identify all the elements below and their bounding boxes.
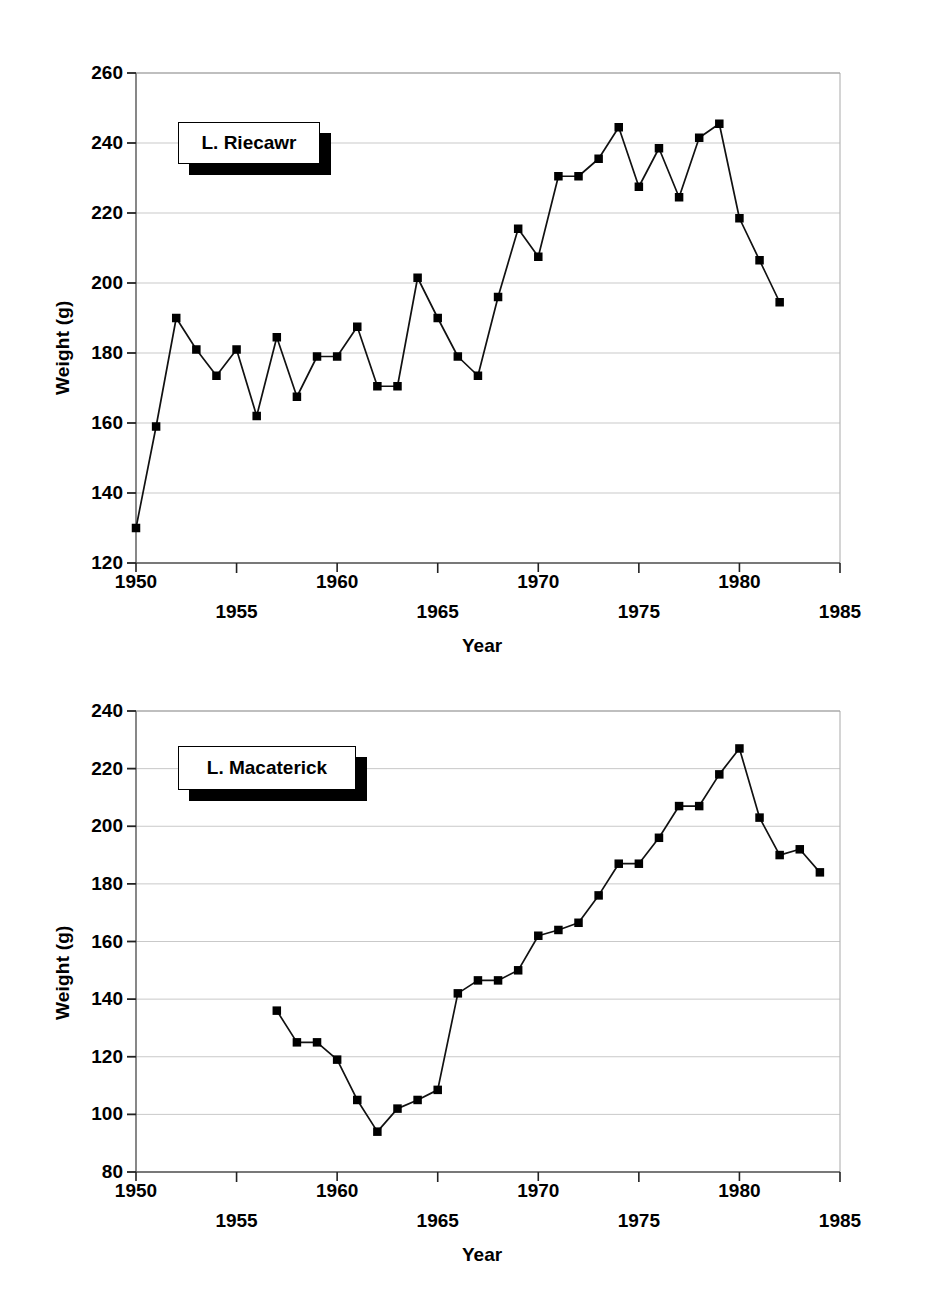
y-axis-tick-label: 160: [67, 931, 123, 953]
x-axis-tick-label: 1960: [297, 571, 377, 593]
x-axis-tick-label: 1985: [800, 1210, 880, 1232]
x-axis-tick-label: 1980: [699, 571, 779, 593]
y-axis-tick-label: 240: [67, 700, 123, 722]
x-axis-tick-label: 1980: [699, 1180, 779, 1202]
y-axis-tick-label: 200: [67, 272, 123, 294]
plot-area-upper: L. Riecawr Weight (g) Year 1201401601802…: [0, 0, 929, 660]
legend-label-upper: L. Riecawr: [178, 122, 320, 164]
x-axis-tick-label: 1975: [599, 601, 679, 623]
x-axis-tick-label: 1950: [96, 571, 176, 593]
y-axis-tick-label: 100: [67, 1103, 123, 1125]
y-axis-tick-label: 240: [67, 132, 123, 154]
y-axis-tick-label: 200: [67, 815, 123, 837]
y-axis-tick-label: 180: [67, 873, 123, 895]
y-axis-tick-label: 140: [67, 482, 123, 504]
legend-label-lower: L. Macaterick: [178, 746, 356, 790]
x-axis-tick-label: 1970: [498, 571, 578, 593]
y-axis-tick-label: 120: [67, 1046, 123, 1068]
plot-area-lower: L. Macaterick Weight (g) Year 8010012014…: [0, 640, 929, 1300]
y-axis-tick-label: 220: [67, 202, 123, 224]
x-axis-tick-label: 1965: [398, 601, 478, 623]
y-axis-tick-label: 160: [67, 412, 123, 434]
y-axis-tick-label: 220: [67, 758, 123, 780]
figure-container: L. Riecawr Weight (g) Year 1201401601802…: [0, 0, 929, 1302]
y-axis-tick-label: 260: [67, 62, 123, 84]
y-axis-tick-label: 140: [67, 988, 123, 1010]
x-axis-label-lower: Year: [462, 1244, 502, 1266]
chart-svg-lower: [0, 640, 929, 1302]
x-axis-tick-label: 1955: [197, 1210, 277, 1232]
chart-panel-lower: L. Macaterick Weight (g) Year 8010012014…: [0, 640, 929, 1302]
x-axis-tick-label: 1965: [398, 1210, 478, 1232]
chart-panel-upper: L. Riecawr Weight (g) Year 1201401601802…: [0, 0, 929, 660]
x-axis-tick-label: 1985: [800, 601, 880, 623]
x-axis-tick-label: 1950: [96, 1180, 176, 1202]
x-axis-tick-label: 1970: [498, 1180, 578, 1202]
x-axis-tick-label: 1975: [599, 1210, 679, 1232]
y-axis-tick-label: 180: [67, 342, 123, 364]
x-axis-tick-label: 1960: [297, 1180, 377, 1202]
x-axis-tick-label: 1955: [197, 601, 277, 623]
chart-svg-upper: [0, 0, 929, 660]
